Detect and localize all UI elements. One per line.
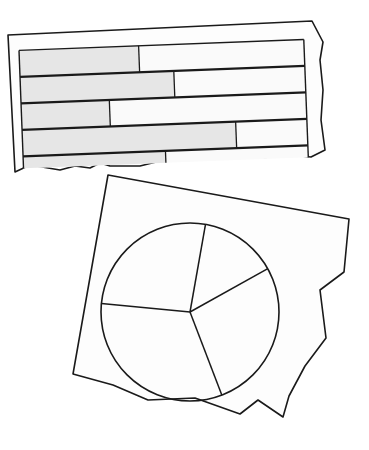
bar-chart-fragment [8,21,325,172]
bar-chart [19,39,308,168]
illustration-canvas [0,0,369,450]
torn-paper-bottom [73,175,349,417]
pie-chart-fragment [73,175,349,417]
bar-fill [21,100,110,130]
